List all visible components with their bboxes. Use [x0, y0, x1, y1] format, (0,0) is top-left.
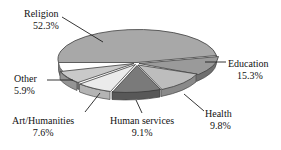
- slice-label-religion-percent: 52.3%: [24, 20, 59, 32]
- slice-label-health: Health 9.8%: [205, 108, 232, 131]
- slice-label-art-humanities-name: Art/Humanities: [12, 115, 74, 127]
- slice-label-art-humanities-percent: 7.6%: [12, 127, 74, 139]
- slice-label-education-percent: 15.3%: [228, 70, 269, 82]
- slice-top-religion: [58, 29, 217, 62]
- slice-label-health-name: Health: [205, 108, 232, 120]
- slice-label-education-name: Education: [228, 58, 269, 70]
- slice-label-other-name: Other: [14, 73, 37, 85]
- slice-label-other-percent: 5.9%: [14, 85, 37, 97]
- slice-label-other: Other 5.9%: [14, 73, 37, 96]
- leader-line-human-services: [136, 100, 142, 113]
- pie-chart-figure: Religion 52.3% Education 15.3% Health 9.…: [0, 0, 281, 150]
- slice-label-health-percent: 9.8%: [205, 120, 232, 132]
- slice-label-education: Education 15.3%: [228, 58, 269, 81]
- slice-label-religion: Religion 52.3%: [24, 8, 59, 31]
- slice-label-art-humanities: Art/Humanities 7.6%: [12, 115, 74, 138]
- slice-label-human-services-name: Human services: [110, 115, 174, 127]
- slice-label-human-services-percent: 9.1%: [110, 127, 174, 139]
- slice-label-human-services: Human services 9.1%: [110, 115, 174, 138]
- leader-line-health: [184, 94, 204, 111]
- slice-label-religion-name: Religion: [24, 8, 59, 20]
